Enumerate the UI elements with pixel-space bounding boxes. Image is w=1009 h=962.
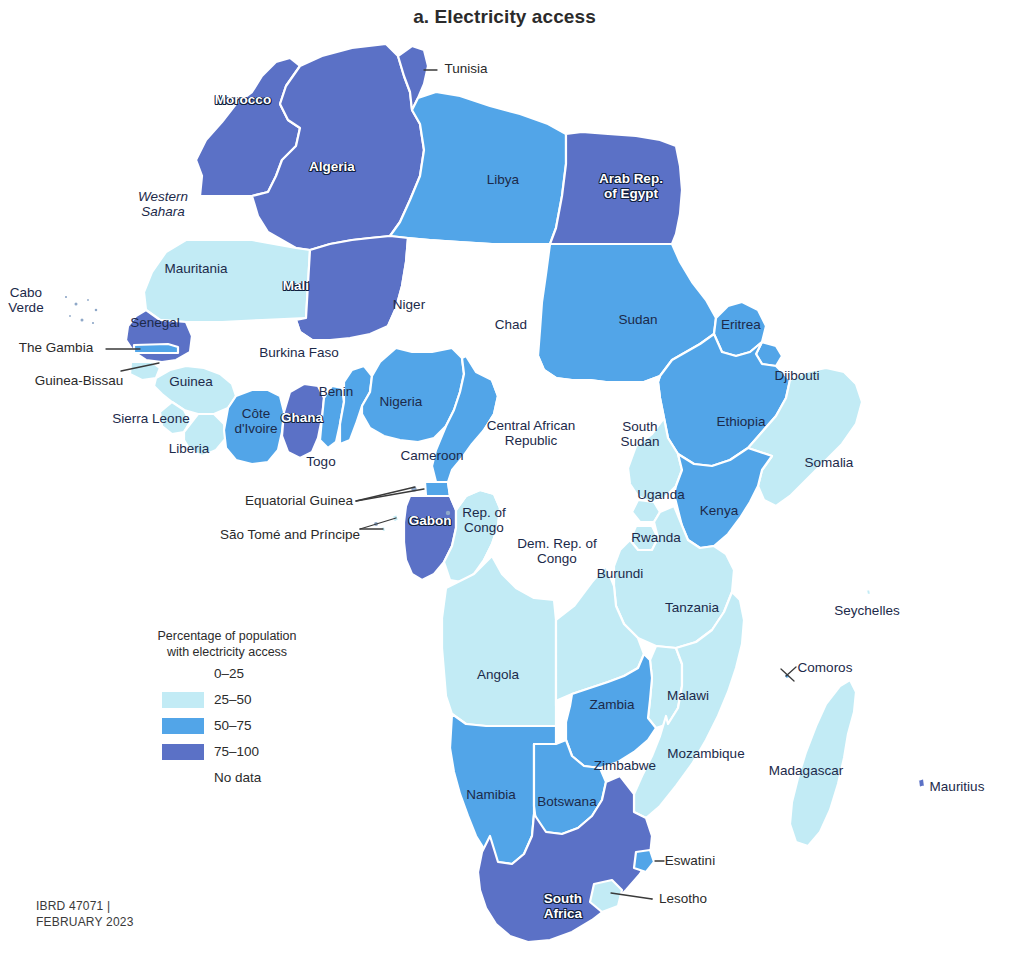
country-madagascar[interactable] [790,680,856,846]
legend-title: Percentage of population with electricit… [136,622,318,661]
country-gambia[interactable] [134,344,178,353]
leader-line-sao-tome-1 [360,518,396,529]
legend-rows: 0–2525–5050–7575–100No data [136,661,318,791]
legend-row[interactable]: 0–25 [136,661,318,687]
legend-label: No data [214,770,261,785]
legend: Percentage of population with electricit… [136,622,318,808]
country-western-sahara[interactable] [186,196,252,240]
legend-swatch [162,666,204,682]
country-cote-divoire[interactable] [224,390,284,464]
country-equatorial-guinea[interactable] [425,482,450,496]
country-seychelles[interactable] [866,589,871,595]
legend-label: 50–75 [214,718,252,733]
map-canvas: TunisiaMoroccoAlgeriaLibyaArab Rep. of E… [0,0,1009,962]
africa-choropleth-map [0,0,1009,962]
legend-label: 75–100 [214,744,259,759]
country-eswatini[interactable] [634,850,654,872]
legend-swatch [162,692,204,708]
country-ghana[interactable] [282,384,324,458]
country-kenya[interactable] [674,448,772,548]
legend-label: 0–25 [214,666,244,681]
legend-row[interactable]: 75–100 [136,739,318,765]
country-lesotho[interactable] [590,880,622,912]
country-egypt[interactable] [550,132,682,244]
legend-row[interactable]: 25–50 [136,687,318,713]
country-mauritania[interactable] [144,240,310,322]
country-mauritius[interactable] [918,778,925,788]
legend-swatch [162,744,204,760]
legend-swatch [162,718,204,734]
country-cabo-verde[interactable] [64,295,99,325]
credits: IBRD 47071 | FEBRUARY 2023 [36,898,134,930]
legend-row[interactable]: No data [136,765,318,791]
legend-swatch [162,770,204,786]
legend-label: 25–50 [214,692,252,707]
legend-row[interactable]: 50–75 [136,713,318,739]
